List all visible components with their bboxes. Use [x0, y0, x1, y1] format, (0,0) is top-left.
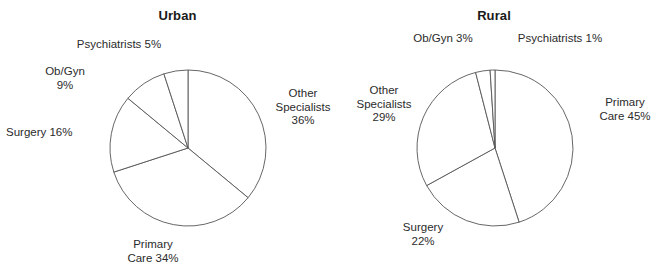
urban-pie-chart-panel: Urban Psychiatrists 5% Ob/Gyn 9% Surgery… — [0, 0, 333, 276]
rural-slice-label-other-specialists: Other Specialists 29% — [337, 84, 431, 125]
rural-pie-chart-panel: Rural Ob/Gyn 3% Psychiatrists 1% Other S… — [333, 0, 665, 276]
rural-slice-label-obgyn: Ob/Gyn 3% — [395, 32, 491, 46]
rural-slice-label-primary-care: Primary Care 45% — [585, 96, 665, 123]
rural-slice-label-psychiatrists: Psychiatrists 1% — [498, 32, 622, 46]
urban-slice-label-psychiatrists: Psychiatrists 5% — [54, 38, 184, 52]
urban-slice-label-other-specialists: Other Specialists 36% — [272, 87, 334, 128]
rural-slice-label-surgery: Surgery 22% — [375, 221, 471, 248]
urban-slice-label-surgery: Surgery 16% — [6, 126, 106, 140]
urban-slice-label-obgyn: Ob/Gyn 9% — [22, 65, 108, 92]
urban-slice-label-primary-care: Primary Care 34% — [98, 238, 208, 265]
